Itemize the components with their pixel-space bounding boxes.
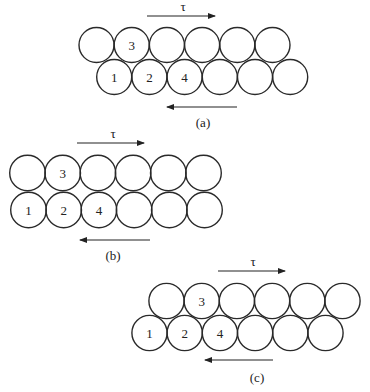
atom-label: 2 — [181, 326, 188, 341]
atom-label: 4 — [217, 326, 224, 341]
top-row-atom — [255, 28, 290, 63]
atom-label: 4 — [96, 203, 103, 218]
top-row-atom — [149, 28, 184, 63]
top-row-atom — [80, 155, 116, 191]
bottom-row-atom — [116, 192, 152, 228]
panel-caption: (a) — [196, 115, 210, 130]
top-row-atom — [79, 28, 114, 63]
panel-b: 3124τ(b) — [10, 126, 223, 263]
bottom-row-atom — [308, 315, 343, 350]
top-row-atom — [325, 283, 360, 318]
panel-caption: (b) — [105, 248, 120, 263]
shear-stress-symbol: τ — [250, 254, 255, 269]
panel-a: 3124τ(a) — [79, 0, 308, 130]
top-row-atom — [220, 28, 255, 63]
atom-label: 1 — [111, 70, 118, 85]
top-row-atom — [115, 155, 151, 191]
bottom-row-atom — [238, 60, 273, 95]
top-row-atom — [185, 28, 220, 63]
bottom-row-atom — [238, 315, 273, 350]
atom-label: 3 — [198, 294, 205, 309]
top-row-atom — [255, 283, 290, 318]
bottom-row-atom — [273, 315, 308, 350]
shear-stress-symbol: τ — [110, 126, 115, 141]
top-row-atom — [149, 283, 184, 318]
top-row-atom — [219, 283, 254, 318]
atom-label: 3 — [59, 166, 66, 181]
top-row-atom — [186, 155, 222, 191]
atom-label: 2 — [60, 203, 67, 218]
atom-label: 1 — [25, 203, 32, 218]
top-row-atom — [10, 155, 46, 191]
shear-stress-symbol: τ — [180, 0, 185, 14]
bottom-row-atom — [152, 192, 188, 228]
atom-label: 3 — [128, 38, 135, 53]
top-row-atom — [290, 283, 325, 318]
atom-label: 2 — [146, 70, 153, 85]
top-row-atom — [151, 155, 187, 191]
atom-label: 4 — [181, 70, 188, 85]
panel-caption: (c) — [250, 370, 264, 385]
atomic-plane-shear-diagram: 3124τ(a)3124τ(b)3124τ(c) — [0, 0, 370, 392]
bottom-row-atom — [273, 60, 308, 95]
bottom-row-atom — [202, 60, 237, 95]
atom-label: 1 — [146, 326, 153, 341]
bottom-row-atom — [187, 192, 223, 228]
panel-c: 3124τ(c) — [132, 254, 360, 385]
